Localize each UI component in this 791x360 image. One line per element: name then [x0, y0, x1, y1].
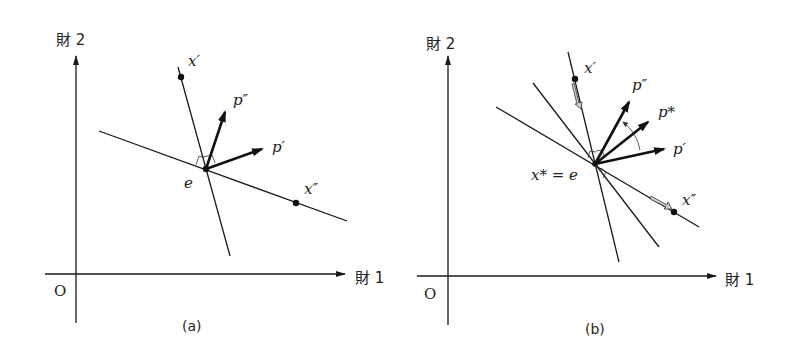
right-angle-marker-left	[196, 156, 204, 165]
label-x-star-equals-e: x* = e	[531, 166, 578, 184]
origin-label: O	[54, 282, 66, 300]
point-x-prime	[178, 74, 184, 80]
shallow-budget-line	[99, 131, 347, 221]
label-p-double-prime: p″	[233, 91, 249, 109]
point-x-double-prime	[293, 200, 299, 206]
vector-p-prime	[206, 149, 262, 169]
vector-p-double-prime	[595, 102, 629, 164]
x-axis-label: 財 1	[725, 271, 754, 289]
point-e	[203, 166, 209, 172]
label-p-prime: p′	[673, 140, 687, 158]
label-p-double-prime: p″	[632, 76, 648, 94]
panel-a: 財 2 財 1 O x′ p″ p′ e x″ (a)	[45, 31, 384, 334]
label-x-prime: x′	[584, 59, 596, 77]
y-axis-label: 財 2	[56, 31, 85, 49]
steep-budget-line	[568, 52, 619, 262]
caption-a: (a)	[182, 318, 202, 334]
label-p-prime: p′	[272, 138, 286, 156]
x-axis-label: 財 1	[355, 269, 384, 287]
label-x-double-prime: x″	[682, 191, 696, 209]
origin-label: O	[424, 285, 436, 303]
label-x-prime: x′	[188, 52, 200, 70]
panel-b: 財 2 財 1 O x′ p″ p* p′ x* = e	[417, 35, 754, 337]
point-x-prime	[572, 76, 578, 82]
hollow-arrow-right	[650, 196, 672, 209]
vector-p-double-prime	[206, 112, 225, 169]
point-e	[592, 161, 598, 167]
label-e: e	[184, 174, 193, 192]
label-x-double-prime: x″	[304, 180, 318, 198]
diagram-canvas: 財 2 財 1 O x′ p″ p′ e x″ (a) 財 2 財 1 O	[0, 0, 791, 360]
steep-budget-line	[178, 67, 230, 256]
label-p-star: p*	[658, 103, 676, 121]
point-x-double-prime	[671, 209, 677, 215]
y-axis-label: 財 2	[426, 35, 455, 53]
caption-b: (b)	[585, 321, 605, 337]
